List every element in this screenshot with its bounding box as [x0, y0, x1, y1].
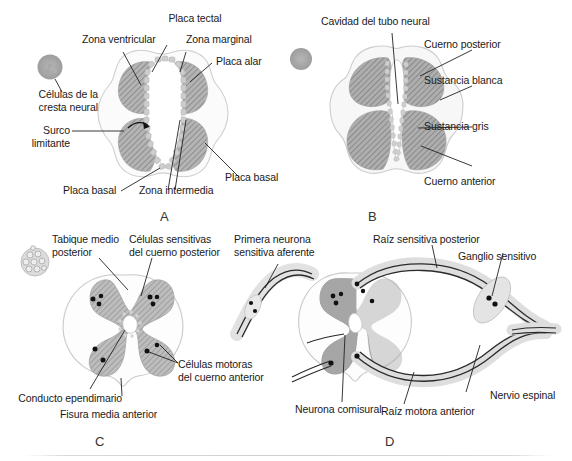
label-placa-tectal: Placa tectal [150, 12, 240, 25]
label-placa-basal-derecha: Placa basal [225, 171, 278, 184]
motor-neuron-soma-d [328, 360, 333, 365]
label-celulas-motoras: Células motoras del cuerno anterior [178, 358, 264, 383]
label-sustancia-blanca: Sustancia blanca [424, 74, 502, 87]
motor-neuron-soma-right-d [354, 353, 359, 358]
label-placa-basal-inferior: Placa basal [63, 184, 116, 197]
panel-b-drawing [290, 33, 472, 173]
label-surco-limitante: Surco limitante [0, 124, 70, 149]
label-zona-ventricular: Zona ventricular [82, 33, 156, 46]
label-cuerno-posterior: Cuerno posterior [424, 38, 501, 51]
label-tabique-medio-posterior: Tabique medio posterior [52, 233, 119, 258]
label-cavidad-tubo-neural: Cavidad del tubo neural [321, 15, 430, 28]
nerve-fascicles-c [23, 246, 46, 272]
panel-a-drawing [38, 45, 240, 191]
label-ganglio-sensitivo: Ganglio sensitivo [458, 250, 536, 263]
panel-letter-c: C [95, 434, 105, 449]
panel-letter-b: B [368, 209, 377, 224]
panel-letter-a: A [160, 209, 169, 224]
label-zona-marginal: Zona marginal [186, 33, 252, 46]
label-celulas-sensitivas: Células sensitivas del cuerno posterior [129, 233, 220, 258]
label-sustancia-gris: Sustancia gris [424, 120, 489, 133]
label-conducto-ependimario: Conducto ependimario [0, 392, 122, 405]
label-fisura-media-anterior: Fisura media anterior [60, 408, 157, 421]
label-neurona-comisural: Neurona comisural [295, 403, 381, 416]
label-celulas-cresta-neural: Células de la cresta neural [0, 88, 98, 113]
panel-d-drawing [237, 245, 556, 404]
bottom-divider [24, 455, 552, 456]
panel-c-drawing [21, 246, 183, 396]
label-raiz-motora-anterior: Raíz motora anterior [381, 405, 475, 418]
label-zona-intermedia: Zona intermedia [139, 184, 213, 197]
label-nervio-espinal: Nervio espinal [490, 389, 555, 402]
anatomy-figure: Placa tectal Zona ventricular Zona margi… [0, 0, 572, 461]
label-raiz-sensitiva-posterior: Raíz sensitiva posterior [373, 233, 480, 246]
label-cuerno-anterior: Cuerno anterior [424, 175, 495, 188]
panel-letter-d: D [385, 434, 395, 449]
sensory-terminal-d [355, 282, 360, 287]
neural-crest-cells-blob-b [290, 48, 312, 70]
label-placa-alar: Placa alar [216, 55, 262, 68]
label-primera-neurona: Primera neurona sensitiva aferente [234, 233, 315, 258]
